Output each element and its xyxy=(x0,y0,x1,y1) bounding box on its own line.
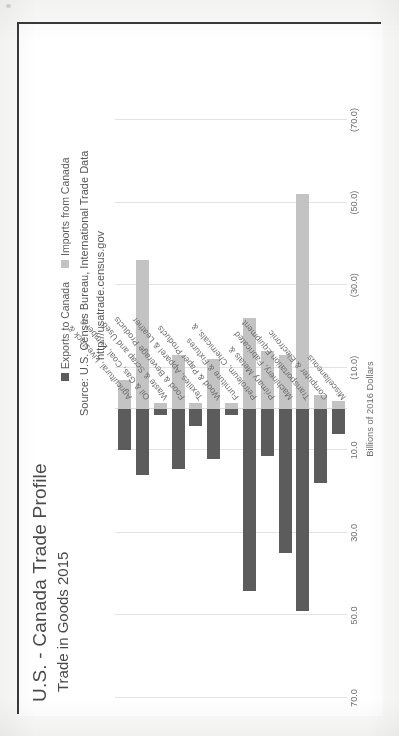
legend-swatch-imports-icon xyxy=(61,260,69,268)
bar-row: Food & Beverage Products xyxy=(169,120,187,698)
legend-label-imports: Imports from Canada xyxy=(59,157,71,256)
bar-exports xyxy=(296,409,309,611)
bar-imports xyxy=(189,403,202,409)
bar-row: Transportation Equipment xyxy=(293,120,311,698)
bar-exports xyxy=(279,409,292,554)
x-tick-label: 10.0 xyxy=(349,441,359,459)
bar-imports xyxy=(154,403,167,409)
scanned-page: U.S. - Canada Trade Profile Trade in Goo… xyxy=(0,0,399,736)
bar-row: Machinery, Fabricated xyxy=(276,120,294,698)
bar-exports xyxy=(225,409,238,415)
bar-row: Petroleum, Chemicals, & xyxy=(240,120,258,698)
bar-row: Textiles, Apparel & Leather xyxy=(186,120,204,698)
chart-subtitle: Trade in Goods 2015 xyxy=(54,402,72,702)
legend-swatch-exports-icon xyxy=(61,373,69,381)
bar-rows: Agricultural, Livestock &Oil & Gas, Coal… xyxy=(115,120,347,698)
bar-row: Agricultural, Livestock & xyxy=(115,120,133,698)
rotated-chart-container: U.S. - Canada Trade Profile Trade in Goo… xyxy=(19,24,383,716)
bar-row: Primary Metals & xyxy=(258,120,276,698)
scan-artifact-speck xyxy=(6,4,11,8)
plot-area: Agricultural, Livestock &Oil & Gas, Coal… xyxy=(115,120,347,698)
bar-imports xyxy=(332,401,345,409)
bar-exports xyxy=(154,409,167,415)
chart-legend: Exports to Canada Imports from Canada xyxy=(59,157,71,381)
bar-exports xyxy=(118,409,131,450)
x-tick-label: 50.0 xyxy=(349,606,359,624)
x-tick-label: 70.0 xyxy=(349,689,359,707)
bar-row: Computer & Electronic xyxy=(311,120,329,698)
x-tick-label: (30.0) xyxy=(349,273,359,297)
bar-exports xyxy=(243,409,256,591)
legend-item-imports: Imports from Canada xyxy=(59,157,71,268)
x-tick-label: (10.0) xyxy=(349,356,359,380)
bar-row: Wood & Paper Products xyxy=(204,120,222,698)
bar-chart: U.S. - Canada Trade Profile Trade in Goo… xyxy=(19,24,383,716)
x-tick-label: 30.0 xyxy=(349,524,359,542)
bar-exports xyxy=(314,409,327,483)
x-axis-title: Billions of 2016 Dollars xyxy=(364,120,375,698)
bar-row: Oil & Gas, Coal, Lumber & xyxy=(133,120,151,698)
chart-title: U.S. - Canada Trade Profile xyxy=(29,402,51,702)
x-tick-label: (70.0) xyxy=(349,108,359,132)
bar-imports xyxy=(225,403,238,409)
bar-exports xyxy=(189,409,202,426)
x-tick-label: (50.0) xyxy=(349,191,359,215)
bar-exports xyxy=(207,409,220,459)
x-axis-tick-labels: 70.050.030.010.0(10.0)(30.0)(50.0)(70.0) xyxy=(349,120,365,698)
bar-row: Waste & Scrap and Used xyxy=(151,120,169,698)
bar-row: Furniture & Fixtures xyxy=(222,120,240,698)
bar-exports xyxy=(172,409,185,469)
bar-exports xyxy=(332,409,345,434)
bar-row: Miscellaneous xyxy=(329,120,347,698)
bar-exports xyxy=(136,409,149,475)
chart-border-frame: U.S. - Canada Trade Profile Trade in Goo… xyxy=(17,22,381,714)
title-block: U.S. - Canada Trade Profile Trade in Goo… xyxy=(29,402,72,702)
bar-exports xyxy=(261,409,274,456)
